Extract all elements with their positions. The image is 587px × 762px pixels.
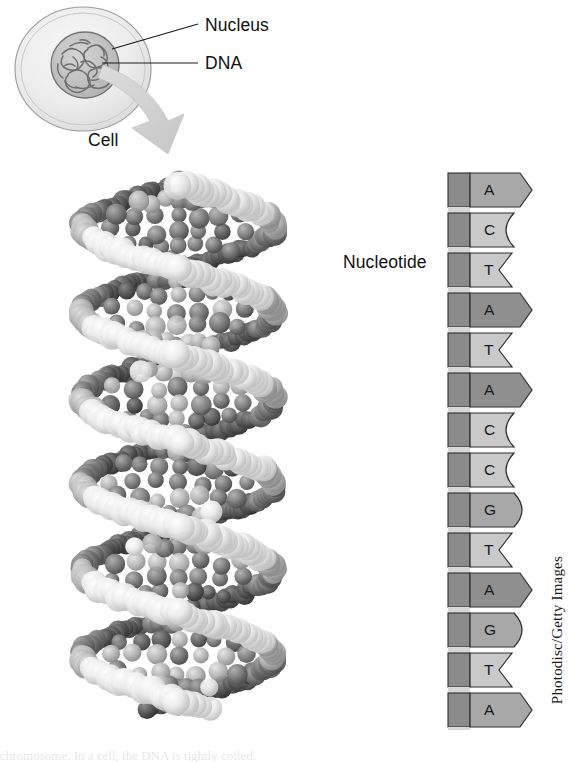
nucleotide-base-g bbox=[470, 493, 522, 527]
nucleotide-backbone bbox=[448, 453, 470, 487]
helix-atom bbox=[142, 533, 162, 553]
nucleotide-backbone bbox=[448, 613, 470, 647]
dna-helix-image bbox=[28, 160, 358, 732]
nucleotide-backbone bbox=[448, 693, 470, 727]
nucleotide-backbone bbox=[448, 493, 470, 527]
helix-atom bbox=[103, 298, 120, 315]
nucleotide-base-c bbox=[470, 453, 514, 487]
nucleotide-phosphate bbox=[448, 367, 470, 373]
nucleotide-phosphate bbox=[448, 287, 470, 293]
helix-atom bbox=[166, 598, 193, 625]
helix-atom bbox=[115, 454, 133, 472]
helix-atom bbox=[130, 360, 152, 382]
helix-atom bbox=[188, 413, 205, 430]
helix-atom bbox=[106, 204, 127, 225]
helix-atom bbox=[168, 410, 184, 426]
nucleotide-base-c bbox=[470, 213, 514, 247]
nucleotide-base-a bbox=[470, 693, 532, 727]
cell-label: Cell bbox=[88, 130, 119, 151]
helix-atom bbox=[234, 394, 251, 411]
helix-atom bbox=[147, 644, 168, 665]
helix-atom bbox=[132, 456, 148, 472]
nucleotide-backbone bbox=[448, 213, 470, 247]
nucleotide-phosphate bbox=[448, 567, 470, 573]
nucleotide-base-t bbox=[470, 253, 512, 287]
dna-label: DNA bbox=[205, 53, 242, 74]
helix-atom bbox=[193, 648, 209, 664]
helix-atom bbox=[104, 377, 120, 393]
nucleotide-base-g bbox=[470, 613, 522, 647]
helix-atom bbox=[167, 513, 195, 541]
nucleotide-base-a bbox=[470, 373, 532, 407]
helix-atom bbox=[105, 554, 125, 574]
helix-atom bbox=[169, 430, 194, 455]
nucleotide-backbone bbox=[448, 533, 470, 567]
helix-atom bbox=[237, 223, 254, 240]
nucleotide-base-a bbox=[470, 173, 532, 207]
nucleotide-phosphate bbox=[448, 687, 470, 693]
nucleotide-base-a bbox=[470, 293, 532, 327]
helix-atom bbox=[162, 688, 190, 716]
photo-credit: Photodisc/Getty Images bbox=[549, 556, 566, 704]
nucleotide-backbone bbox=[448, 293, 470, 327]
cell-diagram: Nucleus DNA Cell bbox=[6, 2, 306, 162]
helix-atom bbox=[171, 207, 186, 222]
helix-atom bbox=[200, 678, 218, 696]
helix-atom bbox=[189, 567, 207, 585]
helix-atom bbox=[227, 664, 248, 685]
helix-atom bbox=[189, 208, 210, 229]
nucleotide-phosphate bbox=[448, 647, 470, 653]
nucleotide-base-t bbox=[470, 653, 512, 687]
helix-atom bbox=[229, 319, 246, 336]
nucleotide-backbone bbox=[448, 653, 470, 687]
nucleotide-phosphate bbox=[448, 447, 470, 453]
nucleotide-phosphate bbox=[448, 327, 470, 333]
helix-atom bbox=[172, 459, 188, 475]
helix-atom bbox=[221, 407, 237, 423]
helix-atom bbox=[217, 590, 231, 604]
nucleotide-phosphate bbox=[448, 607, 470, 613]
nucleotide-phosphate bbox=[448, 207, 470, 213]
nucleotide-phosphate bbox=[448, 727, 470, 730]
helix-atom bbox=[123, 643, 141, 661]
helix-atom bbox=[124, 473, 140, 489]
nucleotide-base-t bbox=[470, 533, 512, 567]
helix-atom bbox=[172, 582, 189, 599]
nucleotide-phosphate bbox=[448, 407, 470, 413]
figure-root: Nucleus DNA Cell bbox=[0, 0, 587, 762]
nucleotide-base-a bbox=[470, 573, 532, 607]
helix-atom bbox=[170, 394, 188, 412]
helix-atom bbox=[151, 383, 167, 399]
dna-helix-svg bbox=[28, 160, 358, 732]
helix-atom bbox=[129, 191, 150, 212]
helix-atom bbox=[172, 631, 188, 647]
helix-atom bbox=[127, 398, 143, 414]
helix-atom bbox=[164, 254, 192, 282]
helix-atom bbox=[170, 237, 187, 254]
helix-atom bbox=[209, 662, 229, 682]
helix-atom bbox=[227, 489, 247, 509]
nucleotide-backbone bbox=[448, 333, 470, 367]
helix-atom bbox=[150, 288, 168, 306]
helix-atom bbox=[164, 172, 192, 200]
nucleotide-base-t bbox=[470, 333, 512, 367]
helix-atom bbox=[191, 394, 212, 415]
helix-atom bbox=[171, 287, 187, 303]
helix-atom bbox=[209, 312, 230, 333]
helix-atom bbox=[234, 567, 252, 585]
nucleotide-backbone bbox=[448, 413, 470, 447]
nucleotide-backbone bbox=[448, 573, 470, 607]
helix-atom bbox=[127, 300, 144, 317]
nucleotide-backbone bbox=[448, 373, 470, 407]
nucleotide-base-c bbox=[470, 413, 514, 447]
helix-atom bbox=[189, 315, 207, 333]
nucleotide-bracket-label: Nucleotide bbox=[343, 252, 427, 273]
helix-atom bbox=[147, 225, 166, 244]
helix-atom bbox=[213, 557, 231, 575]
nucleus-label: Nucleus bbox=[205, 15, 269, 36]
nucleotide-backbone bbox=[448, 173, 470, 207]
nucleotide-column-svg bbox=[440, 170, 560, 730]
helix-atom bbox=[102, 645, 120, 663]
helix-atom bbox=[118, 282, 136, 300]
helix-atom bbox=[125, 537, 144, 556]
